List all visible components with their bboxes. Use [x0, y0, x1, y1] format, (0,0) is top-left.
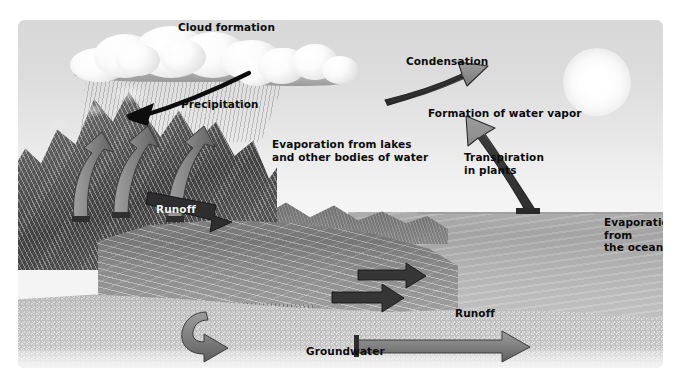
label-runoff-coast: Runoff	[455, 307, 495, 320]
condensation-arrow	[385, 62, 488, 106]
runoff-coast-arrow-1	[358, 263, 426, 288]
label-runoff-mountain: Runoff	[156, 203, 196, 216]
label-formation-of-water-vapor: Formation of water vapor	[428, 107, 582, 120]
arrow-layer	[18, 20, 663, 368]
label-evaporation-from-ocean: Evaporation from the ocean	[604, 216, 663, 254]
label-groundwater: Groundwater	[306, 345, 385, 358]
label-condensation: Condensation	[406, 55, 488, 68]
label-evaporation-from-lakes: Evaporation from lakes and other bodies …	[272, 138, 428, 163]
label-cloud-formation: Cloud formation	[178, 21, 275, 34]
water-cycle-diagram: Cloud formation Precipitation Condensati…	[0, 0, 685, 390]
label-precipitation: Precipitation	[181, 98, 259, 111]
runoff-coast-arrow-2	[332, 284, 404, 312]
groundwater-arrow-left	[182, 312, 228, 362]
label-transpiration-in-plants: Transpiration in plants	[464, 151, 544, 176]
evaporation-lakes-arrow-1	[72, 132, 114, 222]
illustration-plate: Cloud formation Precipitation Condensati…	[18, 20, 663, 368]
